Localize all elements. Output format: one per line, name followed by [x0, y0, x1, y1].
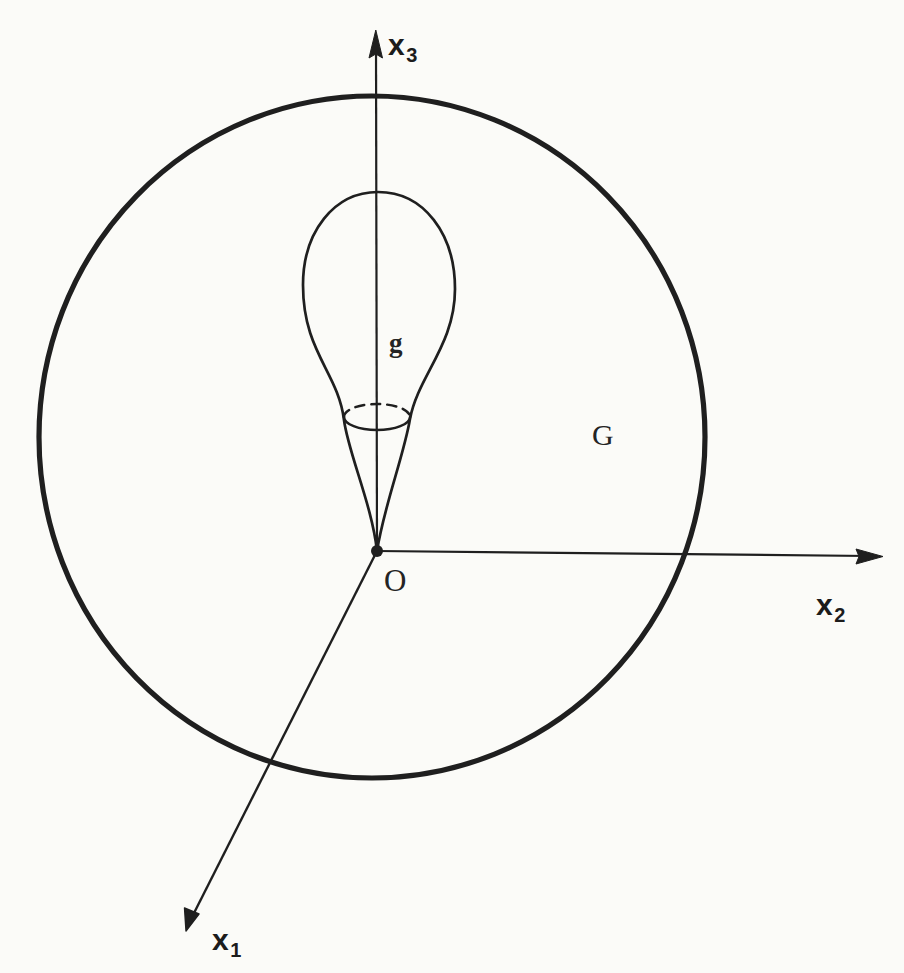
axis-label-x2-subscript: 2 — [834, 604, 846, 626]
x1-axis-line — [191, 551, 377, 919]
x1-axis-arrowhead — [185, 908, 200, 931]
x3-axis-line — [376, 44, 377, 551]
axis-label-x3: x3 — [388, 30, 417, 60]
x3-axis-arrowhead — [369, 30, 383, 58]
origin-label: O — [384, 565, 406, 596]
axis-label-x3-base: x — [388, 28, 405, 61]
axis-label-x2: x2 — [816, 590, 845, 620]
inner-region-g-outline — [303, 192, 455, 551]
x2-axis-line — [377, 551, 869, 556]
axis-label-x1-subscript: 1 — [230, 939, 242, 961]
region-label-G: G — [592, 420, 614, 450]
region-label-g: g — [389, 330, 403, 357]
axis-label-x1-base: x — [212, 923, 229, 956]
axis-label-x2-base: x — [816, 588, 833, 621]
axis-label-x1: x1 — [212, 925, 241, 955]
diagram-svg — [0, 0, 904, 973]
figure-canvas: x3 x2 x1 G g O — [0, 0, 904, 973]
origin-dot — [371, 545, 383, 557]
x2-axis-arrowhead — [856, 549, 883, 564]
axis-label-x3-subscript: 3 — [406, 44, 418, 66]
